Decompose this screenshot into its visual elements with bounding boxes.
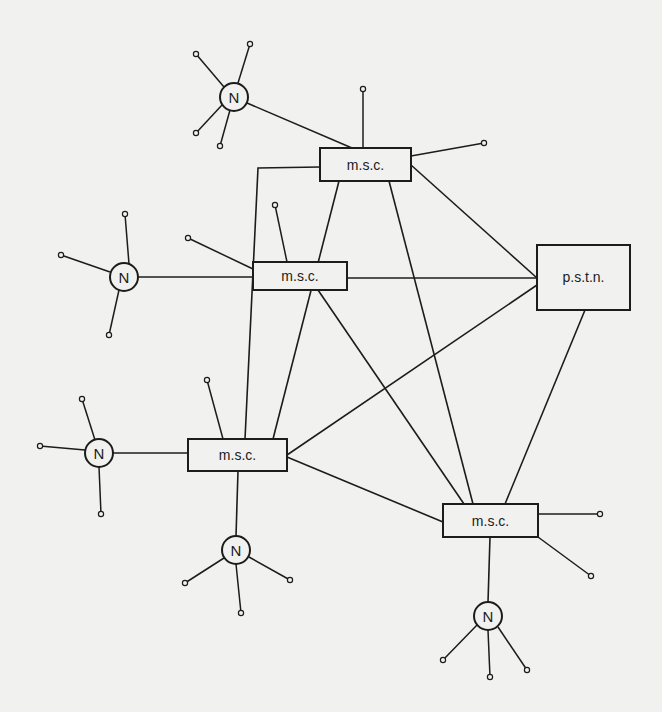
pstn-label: p.s.t.n.	[562, 269, 604, 285]
terminal-icon	[217, 143, 222, 148]
link-n1-msc-top	[247, 103, 352, 148]
msc-top-label: m.s.c.	[347, 157, 384, 173]
terminal-icon	[182, 580, 187, 585]
msc-mid-label: m.s.c.	[281, 268, 318, 284]
terminal-icon	[247, 41, 252, 46]
msc-right: m.s.c.	[443, 504, 538, 537]
terminal-icon	[193, 51, 198, 56]
n1-label: N	[229, 89, 240, 106]
terminal-icon	[185, 235, 190, 240]
network-node-n3: N	[85, 439, 113, 467]
link-msc-top-msc-mid	[273, 181, 339, 439]
terminal-icon	[193, 130, 198, 135]
network-node-n4: N	[222, 536, 250, 564]
link-msc-right-n5	[488, 537, 490, 602]
terminal-icon	[360, 86, 365, 91]
msc-mid: m.s.c.	[253, 262, 347, 290]
terminal-icon	[106, 332, 111, 337]
terminal-icon	[79, 396, 84, 401]
n5-label: N	[483, 608, 494, 625]
terminal-icon	[440, 657, 445, 662]
network-node-n1: N	[220, 83, 248, 111]
msc-right-label: m.s.c.	[472, 513, 509, 529]
terminal-icon	[481, 140, 486, 145]
link-msc-top-pstn	[411, 165, 537, 278]
msc-top: m.s.c.	[320, 148, 411, 181]
terminal-icon	[487, 674, 492, 679]
terminal-icon	[37, 443, 42, 448]
n4-label: N	[231, 542, 242, 559]
n3-label: N	[94, 445, 105, 462]
terminal-icon	[588, 573, 593, 578]
msc-left: m.s.c.	[188, 439, 287, 471]
terminal-icon	[287, 577, 292, 582]
network-node-n5: N	[474, 602, 502, 630]
pstn: p.s.t.n.	[537, 245, 630, 310]
link-msc-top-msc-left	[245, 167, 320, 439]
terminal-icon	[58, 252, 63, 257]
link-msc-left-n4	[236, 471, 238, 536]
terminal-icon	[98, 511, 103, 516]
terminal-icon	[122, 211, 127, 216]
network-node-n2: N	[110, 263, 138, 291]
subscriber-stubs	[37, 41, 602, 679]
n2-label: N	[119, 269, 130, 286]
link-msc-mid-msc-right	[318, 290, 464, 504]
terminal-icon	[597, 511, 602, 516]
terminal-icon	[524, 667, 529, 672]
link-msc-left-msc-right	[287, 457, 443, 522]
network-diagram: m.s.c. m.s.c. p.s.t.n. m.s.c. m.s.c. N N…	[0, 0, 662, 712]
link-msc-left-pstn	[287, 285, 537, 455]
terminal-icon	[272, 202, 277, 207]
terminal-icon	[204, 377, 209, 382]
terminal-icon	[238, 610, 243, 615]
msc-left-label: m.s.c.	[219, 447, 256, 463]
link-pstn-msc-right	[505, 310, 585, 504]
